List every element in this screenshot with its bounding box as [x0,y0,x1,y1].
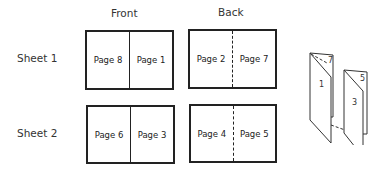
page-cell: Page 8 [87,32,130,88]
column-label-back: Back [218,6,244,18]
page-cell: Page 2 [190,31,233,87]
page-cell: Page 4 [191,106,234,161]
page-cell: Page 7 [233,31,275,87]
sheet-1-front: Page 8 Page 1 [85,30,174,90]
booklet-page-5: 5 [360,74,365,83]
sheet-2-front: Page 6 Page 3 [86,105,175,164]
booklet-page-1: 1 [319,80,324,89]
page-cell: Page 1 [130,32,172,88]
page-cell: Page 5 [234,106,276,161]
page-cell: Page 6 [88,107,131,162]
folded-booklet-illustration: 7 1 5 3 [300,45,385,145]
row-label-sheet-1: Sheet 1 [17,52,57,64]
sheet-2-back: Page 4 Page 5 [189,104,277,163]
booklet-page-7: 7 [328,56,333,65]
sheet-1-back: Page 2 Page 7 [188,29,277,89]
column-label-front: Front [111,7,138,19]
row-label-sheet-2: Sheet 2 [17,127,57,139]
page-cell: Page 3 [131,107,173,162]
booklet-page-3: 3 [352,98,357,107]
